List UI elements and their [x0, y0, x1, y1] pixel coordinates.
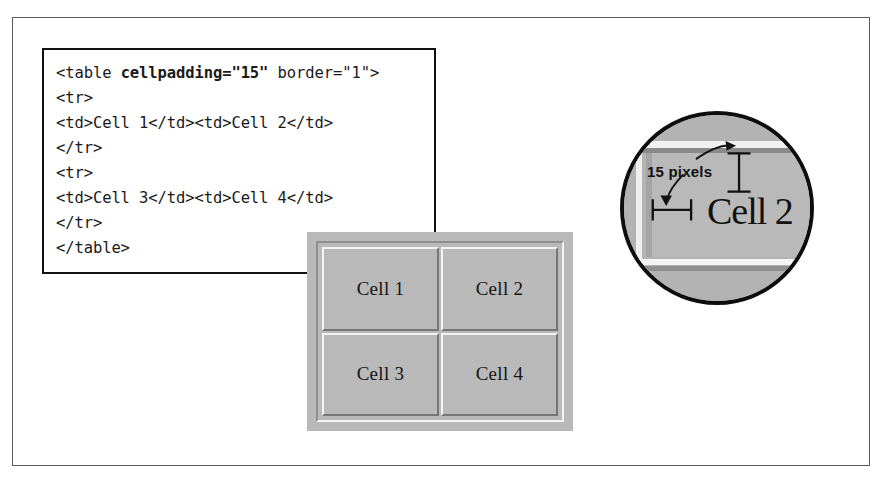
code-text-plain-before: <table — [56, 64, 121, 82]
table-bevel-outer: Cell 1 Cell 2 Cell 3 Cell 4 — [316, 241, 564, 422]
code-line: </tr> — [56, 136, 434, 161]
table-cell: Cell 2 — [441, 247, 558, 331]
arrowhead-horizontal — [660, 196, 672, 207]
code-text-plain-before: </table> — [56, 239, 130, 257]
table-row: Cell 3 Cell 4 — [322, 333, 558, 417]
table-cell: Cell 4 — [441, 333, 558, 417]
code-text-plain-before: </tr> — [56, 214, 102, 232]
table-cell: Cell 3 — [322, 333, 439, 417]
code-text-plain-before: <tr> — [56, 164, 93, 182]
table-cell: Cell 1 — [322, 247, 439, 331]
magnifier-callout: 15 pixels Cell 2 — [620, 111, 814, 305]
code-line: <tr> — [56, 86, 434, 111]
table-row: Cell 1 Cell 2 — [322, 247, 558, 331]
code-text-plain-before: <td>Cell 1</td><td>Cell 2</td> — [56, 114, 333, 132]
measurement-overlay — [624, 115, 810, 301]
horizontal-measure-ibar — [653, 199, 691, 220]
code-text-plain-before: <td>Cell 3</td><td>Cell 4</td> — [56, 189, 333, 207]
code-line: <table cellpadding="15" border="1"> — [56, 61, 434, 86]
code-text-bold: cellpadding="15" — [121, 64, 269, 82]
code-text-plain-before: </tr> — [56, 139, 102, 157]
code-line: <td>Cell 3</td><td>Cell 4</td> — [56, 186, 434, 211]
code-line: <td>Cell 1</td><td>Cell 2</td> — [56, 111, 434, 136]
magnifier-content: 15 pixels Cell 2 — [624, 115, 810, 301]
arrowhead-vertical — [726, 141, 737, 151]
figure-root: <table cellpadding="15" border="1"> <tr>… — [0, 0, 882, 483]
html-table: Cell 1 Cell 2 Cell 3 Cell 4 — [320, 245, 560, 418]
code-text-plain-before: <tr> — [56, 89, 93, 107]
rendered-table-screenshot: Cell 1 Cell 2 Cell 3 Cell 4 — [307, 232, 573, 431]
code-line: <tr> — [56, 161, 434, 186]
code-text-plain-after: border="1"> — [268, 64, 379, 82]
vertical-measure-ibar — [728, 153, 751, 191]
